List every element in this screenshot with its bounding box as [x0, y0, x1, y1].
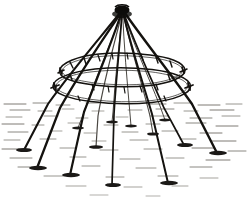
pole-foot-2 — [29, 166, 47, 170]
pole-convergence-apex — [112, 5, 132, 18]
pole-foot-5 — [106, 121, 118, 124]
pole-foot-6 — [105, 183, 121, 187]
conical-pole-frame-drawing — [0, 0, 248, 209]
pole-foot-9 — [147, 132, 159, 135]
pole-foot-10 — [177, 143, 193, 147]
pole-foot-3 — [89, 145, 103, 149]
pole-foot-11 — [209, 151, 227, 155]
pole-foot-1 — [16, 148, 32, 152]
pole-foot-4 — [62, 173, 80, 177]
illustration-canvas: Conical lodge pole frame tipi pole frame… — [0, 0, 248, 209]
pole-foot-8 — [160, 181, 178, 185]
pole-foot-12 — [159, 119, 171, 122]
pole-foot-7 — [125, 125, 137, 128]
pole-foot-13 — [72, 127, 84, 130]
